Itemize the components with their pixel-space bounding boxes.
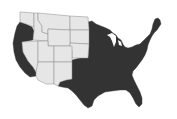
state-sd (70, 30, 89, 44)
state-ne (70, 43, 89, 58)
state-az (36, 62, 54, 84)
us-map (0, 0, 177, 119)
state-co (54, 46, 72, 62)
state-wy (48, 29, 70, 46)
state-nd (70, 16, 89, 30)
